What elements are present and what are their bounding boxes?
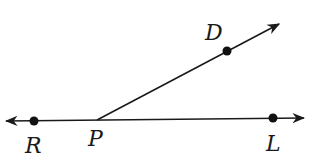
ray-pd: [97, 24, 279, 120]
label-l: L: [265, 131, 281, 156]
line-rl: [6, 118, 304, 121]
label-d: D: [204, 20, 223, 45]
label-r: R: [24, 133, 42, 158]
point-d: [223, 47, 232, 56]
point-r: [30, 117, 39, 126]
angle-diagram: D R P L: [0, 0, 311, 165]
label-p: P: [87, 126, 104, 151]
point-l: [269, 114, 278, 123]
